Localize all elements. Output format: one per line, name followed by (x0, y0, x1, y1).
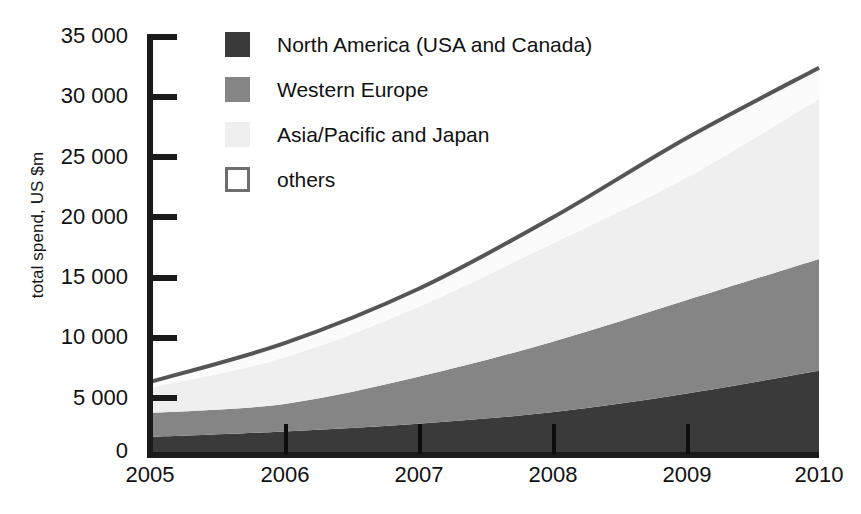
legend-swatch-north-america (225, 32, 250, 57)
x-tick-label: 2005 (105, 462, 195, 488)
legend-label: Western Europe (277, 79, 428, 100)
x-tick-mark (552, 424, 556, 454)
x-tick-mark (686, 424, 690, 454)
stacked-area-chart: total spend, US $m 35 000 30 000 25 000 … (0, 0, 861, 514)
legend-swatch-western-europe (225, 77, 250, 102)
y-tick-label: 35 000 (28, 25, 128, 47)
legend-item: others (225, 157, 655, 202)
y-tick-label: 30 000 (28, 85, 128, 107)
legend-label: others (277, 169, 335, 190)
legend-item: North America (USA and Canada) (225, 22, 655, 67)
x-tick-label: 2007 (374, 462, 464, 488)
x-tick-mark (284, 424, 288, 454)
y-tick-label: 5 000 (28, 387, 128, 409)
x-tick-mark (418, 424, 422, 454)
y-tick-label: 15 000 (28, 266, 128, 288)
y-axis-tick-labels: 35 000 30 000 25 000 20 000 15 000 10 00… (28, 0, 128, 514)
x-tick-label: 2010 (774, 462, 861, 488)
y-tick-label: 25 000 (28, 146, 128, 168)
x-tick-label: 2009 (642, 462, 732, 488)
y-tick-label: 10 000 (28, 326, 128, 348)
legend-item: Asia/Pacific and Japan (225, 112, 655, 157)
y-tick-label: 0 (28, 440, 128, 462)
y-tick-label: 20 000 (28, 206, 128, 228)
legend-label: North America (USA and Canada) (277, 34, 592, 55)
y-tick-mark (153, 214, 177, 220)
x-tick-label: 2008 (508, 462, 598, 488)
y-tick-mark (153, 94, 177, 100)
y-tick-mark (153, 275, 177, 281)
y-tick-mark (153, 395, 177, 401)
x-tick-label: 2006 (240, 462, 330, 488)
x-axis-line (147, 452, 819, 458)
y-tick-mark (153, 154, 177, 160)
legend-swatch-asia-pacific-japan (225, 122, 250, 147)
chart-legend: North America (USA and Canada) Western E… (225, 22, 655, 202)
legend-label: Asia/Pacific and Japan (277, 124, 489, 145)
legend-item: Western Europe (225, 67, 655, 112)
legend-swatch-others (225, 167, 250, 192)
y-tick-mark (153, 335, 177, 341)
y-tick-mark (153, 34, 177, 40)
